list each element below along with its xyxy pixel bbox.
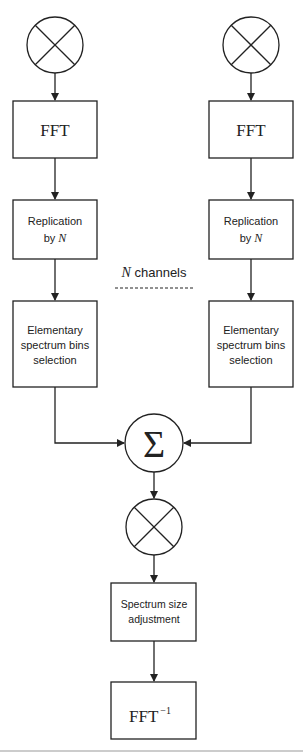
left-replication-line2: by N — [44, 231, 68, 245]
right-mixer-icon — [223, 17, 279, 73]
right-selection-line3: selection — [229, 354, 272, 366]
block-diagram: FFT FFT Replication by N Replication by … — [0, 0, 303, 755]
sum-symbol-icon: Σ — [143, 423, 165, 465]
size-adjust-line1: Spectrum size — [121, 598, 188, 610]
right-fft-label: FFT — [236, 121, 266, 140]
left-selection-line3: selection — [33, 354, 76, 366]
right-replication-line1: Replication — [224, 215, 278, 227]
right-selection-line2: spectrum bins — [217, 339, 286, 351]
left-selection-line2: spectrum bins — [21, 339, 90, 351]
output-mixer-icon — [126, 499, 182, 555]
right-replication-line2: by N — [240, 231, 264, 245]
size-adjust-box — [111, 583, 196, 641]
right-selection-line1: Elementary — [223, 324, 279, 336]
left-fft-label: FFT — [40, 121, 70, 140]
left-replication-box — [13, 200, 97, 259]
left-selection-line1: Elementary — [27, 324, 83, 336]
channels-label: N channels — [121, 265, 187, 280]
left-mixer-icon — [27, 17, 83, 73]
right-replication-box — [209, 200, 293, 259]
left-replication-line1: Replication — [28, 215, 82, 227]
size-adjust-line2: adjustment — [128, 613, 179, 625]
